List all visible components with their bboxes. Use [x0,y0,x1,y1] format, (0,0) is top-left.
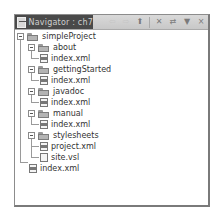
tree-node-file[interactable]: index.xml [17,163,208,174]
xml-file-icon [40,54,48,63]
collapse-all-icon[interactable]: ✕ [154,16,164,28]
collapse-toggle-icon[interactable] [28,132,35,139]
collapse-toggle-icon[interactable] [28,110,35,117]
tree-node-file[interactable]: index.xml [17,97,208,108]
node-label: javadoc [53,87,84,96]
collapse-toggle-icon[interactable] [17,33,24,40]
tree-node-file[interactable]: site.vsl [17,152,208,163]
back-icon[interactable]: ⇦ [107,16,117,28]
tree-node-file[interactable]: index.xml [17,53,208,64]
folder-icon [38,110,49,118]
xml-file-icon [40,98,48,107]
xml-file-icon [40,120,48,129]
xml-file-icon [40,142,48,151]
node-label: index.xml [51,98,90,107]
node-label: simpleProject [42,32,96,41]
node-label: index.xml [51,54,90,63]
node-label: index.xml [40,164,79,173]
tree-node-file[interactable]: project.xml [17,141,208,152]
xml-file-icon [40,76,48,85]
close-icon[interactable]: × [196,16,206,28]
tree-node-project[interactable]: simpleProject [17,31,208,42]
tree-node-folder[interactable]: gettingStarted [17,64,208,75]
toolbar-separator [149,17,150,28]
tree-node-folder[interactable]: about [17,42,208,53]
folder-icon [38,44,49,52]
node-label: about [53,43,76,52]
view-menu-icon[interactable]: ▼ [182,16,192,28]
navigator-view: Navigator : ch7 ⇦ ⇨ ⬆ ✕ ⇄ ▼ × sim [14,14,210,207]
node-label: index.xml [51,120,90,129]
up-folder-icon[interactable]: ⬆ [135,16,145,28]
collapse-toggle-icon[interactable] [28,44,35,51]
resource-tree: simpleProject about index.xml gettingSta… [17,31,208,174]
folder-icon [38,132,49,140]
node-label: project.xml [51,142,96,151]
node-label: manual [53,109,83,118]
tree-node-folder[interactable]: javadoc [17,86,208,97]
view-title: Navigator : ch7 [29,18,93,27]
collapse-toggle-icon[interactable] [28,88,35,95]
tree-node-folder[interactable]: stylesheets [17,130,208,141]
xml-file-icon [29,164,37,173]
collapse-toggle-icon[interactable] [28,66,35,73]
node-label: site.vsl [51,153,79,162]
navigator-tab[interactable]: Navigator : ch7 [15,15,93,29]
folder-icon [38,88,49,96]
node-label: stylesheets [53,131,99,140]
project-folder-icon [27,33,38,41]
node-label: gettingStarted [53,65,111,74]
view-toolbar: ⇦ ⇨ ⬆ ✕ ⇄ ▼ × [107,16,206,28]
link-editor-icon[interactable]: ⇄ [168,16,178,28]
forward-icon[interactable]: ⇨ [121,16,131,28]
view-title-bar: Navigator : ch7 ⇦ ⇨ ⬆ ✕ ⇄ ▼ × [15,15,208,30]
folder-icon [38,66,49,74]
tree-node-file[interactable]: index.xml [17,119,208,130]
tree-node-folder[interactable]: manual [17,108,208,119]
node-label: index.xml [51,76,90,85]
navigator-view-icon [17,17,26,28]
tree-node-file[interactable]: index.xml [17,75,208,86]
text-file-icon [40,153,48,162]
